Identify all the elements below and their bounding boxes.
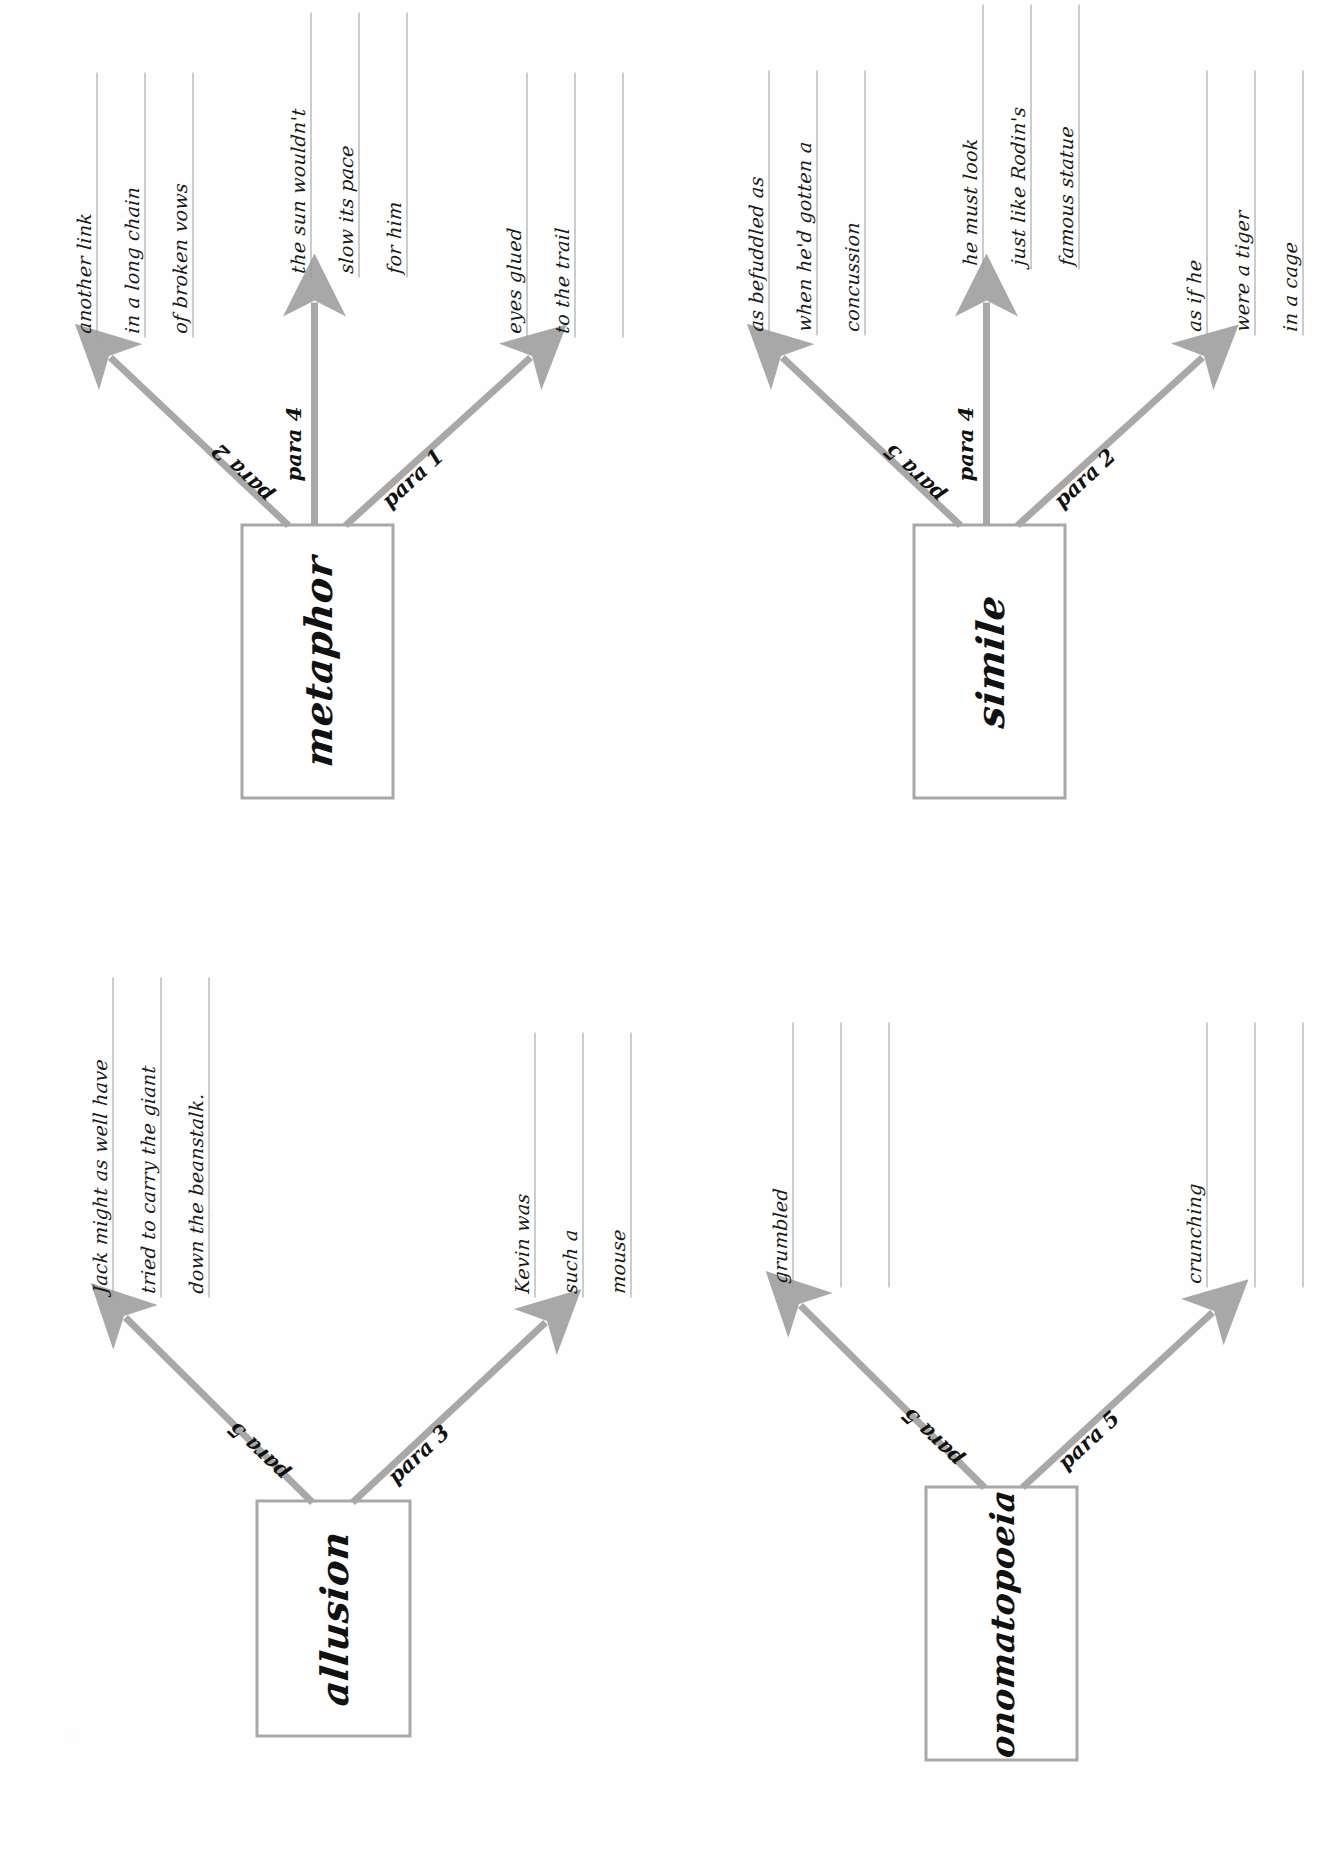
- answer-line[interactable]: in a long chain: [110, 72, 145, 337]
- answer-line[interactable]: [806, 1022, 841, 1287]
- answer-line[interactable]: as if he: [1172, 70, 1207, 335]
- answer-line[interactable]: were a tiger: [1220, 70, 1255, 335]
- answer-line[interactable]: slow its pace: [324, 12, 359, 277]
- answer-line[interactable]: another link: [62, 72, 97, 337]
- answer-text: Jack might as well have: [88, 1058, 110, 1294]
- answer-text: another link: [72, 211, 94, 333]
- answer-block-allusion-para-5[interactable]: Jack might as well have tried to carry t…: [78, 977, 222, 1297]
- answer-line[interactable]: of broken vows: [158, 72, 193, 337]
- answer-text: as if he: [1182, 258, 1204, 332]
- answer-line[interactable]: [588, 72, 623, 337]
- answer-line[interactable]: [1220, 1022, 1255, 1287]
- answer-line[interactable]: just like Rodin's: [996, 4, 1031, 269]
- answer-line[interactable]: famous statue: [1044, 4, 1079, 269]
- answer-text: crunching: [1182, 1182, 1204, 1284]
- answer-text: Kevin was: [510, 1192, 532, 1294]
- answer-text: for him: [382, 200, 404, 274]
- answer-line[interactable]: eyes glued: [492, 72, 527, 337]
- answer-text: such a: [558, 1228, 580, 1294]
- answer-line[interactable]: in a cage: [1268, 70, 1303, 335]
- answer-text: in a long chain: [120, 186, 142, 334]
- answer-text: he must look: [958, 137, 980, 266]
- answer-line[interactable]: grumbled: [758, 1022, 793, 1287]
- answer-block-allusion-para-3[interactable]: Kevin was such a mouse: [500, 1032, 644, 1297]
- answer-text: in a cage: [1278, 240, 1300, 331]
- answer-block-onomatopoeia-lower[interactable]: crunching: [1172, 1022, 1316, 1287]
- answer-text: concussion: [840, 221, 862, 332]
- answer-line[interactable]: mouse: [596, 1032, 631, 1297]
- answer-line[interactable]: the sun wouldn't: [276, 12, 311, 277]
- answer-text: of broken vows: [168, 182, 190, 334]
- concept-map-metaphor: metaphor para 1 para 4 para 2 eyes glued…: [0, 2, 660, 917]
- answer-block-metaphor-para-2[interactable]: another link in a long chain of broken v…: [62, 72, 206, 337]
- answer-text: grumbled: [768, 1187, 790, 1284]
- answer-block-simile-para-2[interactable]: as if he were a tiger in a cage: [1172, 70, 1316, 335]
- answer-line[interactable]: Kevin was: [500, 1032, 535, 1297]
- answer-line[interactable]: he must look: [948, 4, 983, 269]
- scanned-worksheet-page: allusion para 3 para 5 Kevin was such a …: [0, 0, 1343, 1857]
- answer-text: to the trail: [550, 226, 572, 334]
- answer-text: mouse: [606, 1228, 628, 1294]
- answer-text: slow its pace: [334, 144, 356, 274]
- answer-line[interactable]: crunching: [1172, 1022, 1207, 1287]
- answer-line[interactable]: [1268, 1022, 1303, 1287]
- answer-text: the sun wouldn't: [286, 107, 308, 274]
- answer-line[interactable]: down the beanstalk.: [174, 977, 209, 1297]
- answer-text: down the beanstalk.: [184, 1092, 206, 1294]
- answer-text: when he'd gotten a: [792, 140, 814, 332]
- answer-line[interactable]: such a: [548, 1032, 583, 1297]
- answer-line[interactable]: tried to carry the giant: [126, 977, 161, 1297]
- answer-text: just like Rodin's: [1006, 105, 1028, 265]
- answer-block-metaphor-para-4[interactable]: the sun wouldn't slow its pace for him: [276, 12, 420, 277]
- answer-text: tried to carry the giant: [136, 1064, 158, 1294]
- answer-line[interactable]: [854, 1022, 889, 1287]
- answer-text: eyes glued: [502, 226, 524, 333]
- branch-label-simile-para-4: para 4: [952, 406, 977, 481]
- answer-block-simile-para-5[interactable]: as befuddled as when he'd gotten a concu…: [734, 70, 878, 335]
- concept-map-onomatopoeia: onomatopoeia para 5 para 5 crunching gru…: [672, 927, 1332, 1857]
- answer-line[interactable]: concussion: [830, 70, 865, 335]
- answer-line[interactable]: when he'd gotten a: [782, 70, 817, 335]
- answer-block-simile-para-4[interactable]: he must look just like Rodin's famous st…: [948, 4, 1092, 269]
- answer-text: were a tiger: [1230, 209, 1252, 332]
- answer-block-onomatopoeia-upper[interactable]: grumbled: [758, 1022, 902, 1287]
- branch-label-metaphor-para-4: para 4: [280, 406, 305, 481]
- concept-map-allusion: allusion para 3 para 5 Kevin was such a …: [0, 927, 660, 1857]
- answer-block-metaphor-para-1[interactable]: eyes glued to the trail: [492, 72, 636, 337]
- answer-line[interactable]: to the trail: [540, 72, 575, 337]
- answer-line[interactable]: Jack might as well have: [78, 977, 113, 1297]
- answer-text: as befuddled as: [744, 175, 766, 332]
- concept-map-simile: simile para 2 para 4 para 5 as if he wer…: [672, 2, 1332, 917]
- answer-line[interactable]: for him: [372, 12, 407, 277]
- answer-line[interactable]: as befuddled as: [734, 70, 769, 335]
- answer-text: famous statue: [1054, 125, 1076, 266]
